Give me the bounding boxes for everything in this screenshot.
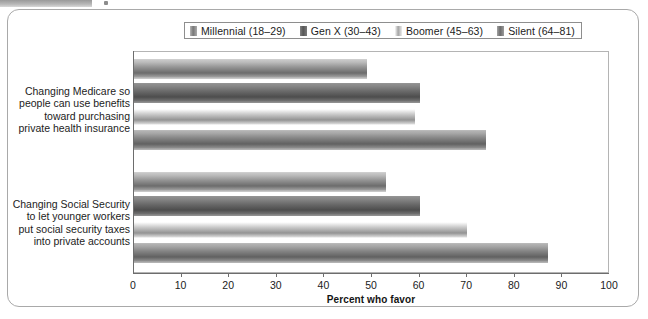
bar-fill <box>134 106 415 126</box>
legend-swatch-icon <box>395 26 402 36</box>
legend-label: Boomer (45–63) <box>406 25 483 37</box>
legend-label: Gen X (30–43) <box>311 25 381 37</box>
legend-swatch-icon <box>497 26 504 36</box>
x-tick <box>419 273 420 277</box>
bar-fill <box>134 172 386 192</box>
category-label-line: people can use benefits <box>12 97 130 109</box>
y-axis-line <box>133 51 134 273</box>
bar <box>134 172 386 192</box>
category-label-line: into private accounts <box>12 235 130 247</box>
bar-fill <box>134 130 486 150</box>
bar-fill <box>134 59 367 79</box>
bar-fill <box>134 219 467 239</box>
page-header-strip <box>0 0 92 7</box>
x-tick <box>228 273 229 277</box>
legend-label: Millennial (18–29) <box>201 25 286 37</box>
bar <box>134 243 548 263</box>
category-label: Changing Social Securityto let younger w… <box>12 198 130 248</box>
category-label-line: to let younger workers <box>12 210 130 222</box>
legend-item-genx[interactable]: Gen X (30–43) <box>300 25 381 37</box>
category-label: Changing Medicare sopeople can use benef… <box>12 85 130 135</box>
bar-fill <box>134 243 548 263</box>
x-tick <box>371 273 372 277</box>
bar <box>134 59 367 79</box>
legend-item-boomer[interactable]: Boomer (45–63) <box>395 25 483 37</box>
header-marker-dot <box>104 1 108 5</box>
x-axis-title: Percent who favor <box>133 294 609 305</box>
x-tick-label: 70 <box>451 279 481 291</box>
x-tick <box>561 273 562 277</box>
chart-screenshot: Millennial (18–29)Gen X (30–43)Boomer (4… <box>0 0 648 319</box>
legend-item-silent[interactable]: Silent (64–81) <box>497 25 575 37</box>
plot-area <box>133 51 609 273</box>
x-tick <box>466 273 467 277</box>
x-tick-label: 40 <box>308 279 338 291</box>
category-label-line: Changing Medicare so <box>12 85 130 97</box>
x-tick-label: 20 <box>213 279 243 291</box>
x-tick <box>181 273 182 277</box>
x-tick-label: 60 <box>404 279 434 291</box>
bar <box>134 106 415 126</box>
x-tick <box>323 273 324 277</box>
legend-swatch-icon <box>190 26 197 36</box>
legend-swatch-icon <box>300 26 307 36</box>
x-tick-label: 50 <box>356 279 386 291</box>
legend-item-millennial[interactable]: Millennial (18–29) <box>190 25 286 37</box>
x-tick <box>514 273 515 277</box>
bar <box>134 219 467 239</box>
x-tick <box>276 273 277 277</box>
category-label-line: toward purchasing <box>12 110 130 122</box>
x-tick-label: 10 <box>166 279 196 291</box>
bars-container <box>134 52 608 272</box>
x-tick-label: 30 <box>261 279 291 291</box>
bar-fill <box>134 196 420 216</box>
bar <box>134 130 486 150</box>
category-label-line: put social security taxes <box>12 223 130 235</box>
bar-fill <box>134 83 420 103</box>
x-tick-label: 0 <box>118 279 148 291</box>
x-tick-label: 90 <box>546 279 576 291</box>
chart-legend: Millennial (18–29)Gen X (30–43)Boomer (4… <box>184 22 582 39</box>
x-tick-label: 100 <box>594 279 624 291</box>
category-label-line: Changing Social Security <box>12 198 130 210</box>
bar <box>134 83 420 103</box>
x-tick-label: 80 <box>499 279 529 291</box>
category-label-line: private health insurance <box>12 122 130 134</box>
legend-label: Silent (64–81) <box>508 25 575 37</box>
bar <box>134 196 420 216</box>
